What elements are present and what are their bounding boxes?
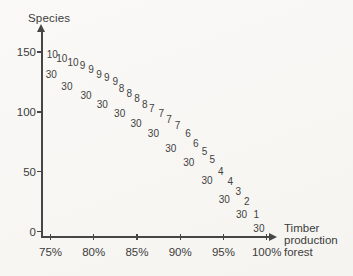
y-tick-mark xyxy=(37,231,43,232)
data-point-label: 7 xyxy=(166,114,172,125)
data-point-label: 9 xyxy=(113,75,119,86)
data-point-label: 5 xyxy=(202,146,208,157)
data-point-label: 8 xyxy=(119,82,125,93)
x-tick-label: 85% xyxy=(115,246,159,258)
data-point-label: 3 xyxy=(235,185,241,196)
data-point-30-label: 30 xyxy=(183,157,194,168)
x-tick-mark xyxy=(93,234,94,241)
data-point-label: 7 xyxy=(158,108,164,119)
x-axis-title-line3: forest xyxy=(284,246,338,258)
x-tick-mark xyxy=(136,234,137,241)
y-tick-label: 50 xyxy=(0,165,36,179)
data-point-30-label: 30 xyxy=(97,98,108,109)
data-point-label: 9 xyxy=(80,60,86,71)
y-tick-mark xyxy=(37,111,43,112)
data-point-label: 4 xyxy=(218,165,224,176)
x-axis-line xyxy=(41,236,271,238)
x-tick-mark xyxy=(223,234,224,241)
x-tick-label: 75% xyxy=(29,246,73,258)
data-point-label: 10 xyxy=(67,56,78,67)
data-point-label: 8 xyxy=(142,98,148,109)
data-point-30-label: 30 xyxy=(114,108,125,119)
x-axis-title-line1: Timber xyxy=(284,222,338,234)
x-tick-mark xyxy=(266,234,267,241)
x-tick-label: 100% xyxy=(245,246,289,258)
x-tick-label: 90% xyxy=(158,246,202,258)
y-axis-title: Species xyxy=(28,12,70,24)
y-tick-mark xyxy=(37,51,43,52)
data-point-label: 6 xyxy=(193,138,199,149)
data-point-label: 9 xyxy=(104,72,110,83)
scanned-scatter-figure: Species Timber production forest 1501005… xyxy=(0,0,353,276)
data-point-label: 5 xyxy=(209,153,215,164)
data-point-label: 1 xyxy=(254,208,260,219)
y-tick-label: 0 xyxy=(0,225,36,239)
x-tick-label: 80% xyxy=(72,246,116,258)
data-point-30-label: 30 xyxy=(253,223,264,234)
y-tick-label: 100 xyxy=(0,105,36,119)
data-point-30-label: 30 xyxy=(201,175,212,186)
data-point-label: 2 xyxy=(244,195,250,206)
x-tick-mark xyxy=(50,234,51,241)
x-axis-right-arrow-icon xyxy=(269,233,277,241)
x-axis-title: Timber production forest xyxy=(284,222,338,259)
x-axis-title-line2: production xyxy=(284,234,338,246)
data-point-label: 4 xyxy=(228,176,234,187)
data-point-label: 7 xyxy=(149,103,155,114)
data-point-30-label: 30 xyxy=(46,68,57,79)
x-tick-mark xyxy=(180,234,181,241)
data-point-label: 6 xyxy=(185,128,191,139)
data-point-30-label: 30 xyxy=(165,142,176,153)
x-tick-label: 95% xyxy=(201,246,245,258)
data-point-label: 9 xyxy=(96,68,102,79)
data-point-30-label: 30 xyxy=(219,194,230,205)
data-point-label: 7 xyxy=(175,120,181,131)
data-point-30-label: 30 xyxy=(131,117,142,128)
data-point-30-label: 30 xyxy=(80,90,91,101)
data-point-30-label: 30 xyxy=(148,128,159,139)
y-axis-up-arrow-icon xyxy=(37,24,45,32)
data-point-label: 8 xyxy=(126,87,132,98)
data-point-30-label: 30 xyxy=(236,208,247,219)
data-point-30-label: 30 xyxy=(61,80,72,91)
y-axis-line xyxy=(41,30,43,238)
y-tick-mark xyxy=(37,171,43,172)
y-tick-label: 150 xyxy=(0,45,36,59)
data-point-label: 10 xyxy=(56,52,67,63)
data-point-label: 8 xyxy=(134,92,140,103)
data-point-label: 9 xyxy=(88,63,94,74)
